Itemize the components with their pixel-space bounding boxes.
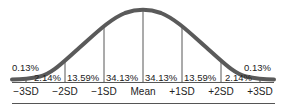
tick-plus-3sd: +3SD [247,86,272,97]
label-seg-6: 2.14% [225,72,252,83]
tick-plus-2sd: +2SD [208,86,233,97]
tick-minus-3sd: −3SD [13,86,38,97]
label-seg-4: 34.13% [145,72,178,83]
normal-distribution-chart: 0.13% 2.14% 13.59% 34.13% 34.13% 13.59% … [0,0,283,107]
tick-mean: Mean [130,86,155,97]
label-seg-3: 34.13% [106,72,139,83]
label-tail-right: 0.13% [244,62,271,73]
label-seg-5: 13.59% [184,72,217,83]
tick-minus-1sd: −1SD [91,86,116,97]
label-seg-1: 2.14% [34,72,61,83]
tick-plus-1sd: +1SD [169,86,194,97]
tick-minus-2sd: −2SD [52,86,77,97]
percentage-labels: 0.13% 2.14% 13.59% 34.13% 34.13% 13.59% … [12,62,271,83]
sd-axis-labels: −3SD −2SD −1SD Mean +1SD +2SD +3SD [13,86,272,97]
label-seg-2: 13.59% [67,72,100,83]
